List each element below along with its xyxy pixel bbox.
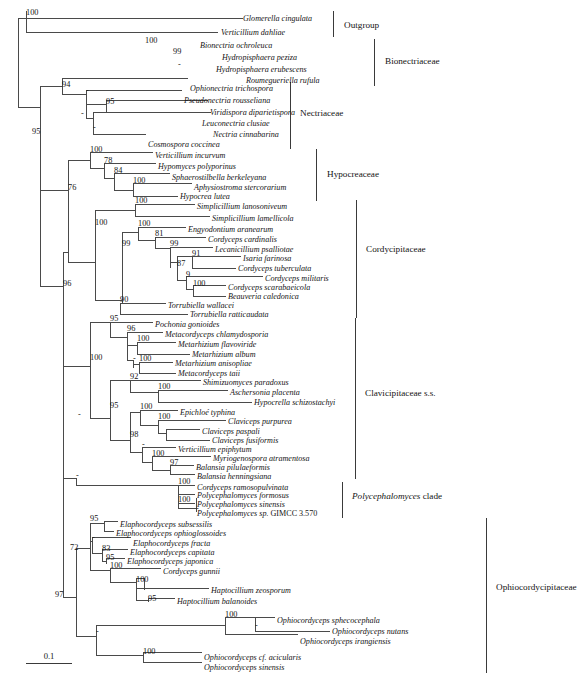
bootstrap-value: 100 (133, 176, 145, 185)
bootstrap-value: 100 (90, 145, 102, 154)
bootstrap-value: 9 (186, 270, 190, 279)
taxon-label: Metacordyceps chlamydosporia (164, 330, 268, 339)
clade-label-text: clade (420, 491, 442, 501)
bootstrap-value: 100 (158, 382, 170, 391)
taxon-label: Ophionectria trichospora (190, 84, 273, 93)
taxon-label: Hypomyces polyporinus (157, 162, 236, 171)
bootstrap-value: - (93, 123, 96, 132)
taxon-label: Elaphocordyceps capitata (129, 548, 214, 557)
bootstrap-value: 100 (110, 561, 122, 570)
bootstrap-value: 96 (127, 324, 135, 333)
clade-label-layer: OutgroupBionectriaceaeNectriaceaeHypocre… (300, 20, 577, 592)
bootstrap-value: 100 (143, 647, 155, 656)
clade-label: Outgroup (344, 20, 380, 30)
taxon-label: Hydropisphaera erubescens (215, 65, 307, 74)
bootstrap-value: 72 (70, 543, 78, 552)
taxon-label: Myriogenospora atramentosa (212, 454, 309, 463)
taxon-label: Viridispora diparietispora (210, 108, 295, 117)
bootstrap-value: 100 (90, 353, 102, 362)
taxon-label: Epichloé typhina (179, 408, 235, 417)
bootstrap-value: 100 (138, 219, 150, 228)
taxon-label: Simplicillium lamellicola (212, 214, 294, 223)
bootstrap-value: - (255, 621, 258, 630)
bootstrap-value: 100 (136, 575, 148, 584)
bootstrap-value: 99 (173, 47, 181, 56)
taxon-label: Balansia henningsiana (197, 472, 271, 481)
taxon-label: Cordyceps militaris (265, 274, 329, 283)
bootstrap-value: 100 (158, 412, 170, 421)
taxon-label: Pseudonectria rousseliana (183, 96, 270, 105)
taxon-label: Engyodontium aranearum (187, 225, 273, 234)
bootstrap-value: 100 (152, 449, 164, 458)
bootstrap-value: - (142, 440, 145, 449)
clade-label-genus: Polycephalomyces (351, 491, 421, 501)
taxon-label: Ophiocordyceps irangiensis (300, 637, 391, 646)
bootstrap-value: - (76, 471, 79, 480)
clade-label: Nectriaceae (300, 108, 343, 118)
scale-bar-label: 0.1 (44, 651, 55, 661)
bootstrap-value: 95 (148, 594, 156, 603)
bootstrap-value: 100 (26, 8, 38, 17)
tree-canvas: Glomerella cingulataVerticillium dahliae… (0, 0, 585, 688)
bootstrap-value: - (78, 410, 81, 419)
taxon-label: Claviceps purpurea (228, 417, 292, 426)
taxon-label: Haptocillium zeosporum (210, 586, 291, 595)
taxon-label: Haptocillium balanoides (176, 597, 257, 606)
bootstrap-value: 76 (68, 183, 76, 192)
bootstrap-value: 100 (139, 354, 151, 363)
scale-bar-layer: 0.1 (26, 651, 72, 663)
clade-label: Hypocreaceae (327, 169, 379, 179)
taxon-label: Cordyceps gunnii (163, 567, 220, 576)
taxon-label: Pochonia gonioides (154, 320, 220, 329)
bootstrap-value: 96 (63, 279, 71, 288)
bootstrap-value: 100 (178, 495, 190, 504)
taxon-label: Metarhizium flavoviride (177, 340, 257, 349)
taxon-label: Hypocrella schizostachyi (253, 398, 335, 407)
taxon-label: Hypocrea lutea (179, 192, 230, 201)
bootstrap-value: 90 (120, 295, 128, 304)
bootstrap-value: - (81, 109, 84, 118)
bootstrap-value: 95 (32, 127, 40, 136)
bootstrap-value: 78 (104, 156, 112, 165)
bootstrap-value: 97 (55, 590, 63, 599)
taxon-label: Isaria farinosa (242, 254, 291, 263)
bootstrap-value: 95 (90, 514, 98, 523)
bootstrap-value: 100 (145, 36, 157, 45)
taxon-label: Simplicillium lanosoniveum (197, 202, 287, 211)
bootstrap-value: 98 (130, 430, 138, 439)
taxon-label: Aschersonia placenta (229, 388, 300, 397)
taxon-label: Lecanicillium psalliotae (214, 245, 294, 254)
bootstrap-value: 91 (192, 249, 200, 258)
taxon-label: Verticillium incurvum (155, 151, 226, 160)
bootstrap-value: 97 (170, 458, 178, 467)
taxon-label: Leuconectria clusiae (201, 119, 270, 128)
taxon-label: Cordyceps scarabaeicola (228, 283, 310, 292)
taxon-label: Metacordyceps taii (177, 369, 240, 378)
taxon-label: Ophiocordyceps sinensis (204, 663, 284, 672)
taxon-label: Elaphocordyceps ophioglossoides (115, 529, 226, 538)
bootstrap-value: 100 (225, 610, 237, 619)
bootstrap-value: - (86, 86, 89, 95)
taxon-label: Ophiocordyceps nutans (332, 627, 408, 636)
taxon-label: Metarhizium album (191, 350, 256, 359)
clade-label: Clavicipitaceae s.s. (365, 388, 436, 398)
clade-label: Cordycipitaceae (366, 244, 426, 254)
taxon-label: Verticillium dahliae (221, 28, 285, 37)
taxon-label: Polycephalomyces sinensis (196, 500, 285, 509)
bootstrap-value: - (196, 504, 199, 513)
taxon-label: Shimizuomyces paradoxus (203, 378, 289, 387)
phylogenetic-tree-figure: Glomerella cingulataVerticillium dahliae… (0, 0, 585, 688)
bootstrap-value: - (133, 354, 136, 363)
bootstrap-value: 100 (140, 402, 152, 411)
taxon-label: Balansia pilulaeformis (196, 463, 270, 472)
bootstrap-value: 95 (110, 314, 118, 323)
bootstrap-value: 87 (177, 259, 185, 268)
taxon-label: Beauveria caledonica (228, 292, 299, 301)
bootstrap-value: - (178, 60, 181, 69)
bootstrap-value: 95 (106, 97, 114, 106)
bootstrap-value: 81 (155, 229, 163, 238)
tree-branch (18, 18, 26, 32)
taxon-label: Elaphocordyceps subsessilis (119, 520, 212, 529)
taxon-label: Claviceps fusiformis (212, 436, 278, 445)
taxon-label: Metarhizium anisopliae (174, 359, 252, 368)
